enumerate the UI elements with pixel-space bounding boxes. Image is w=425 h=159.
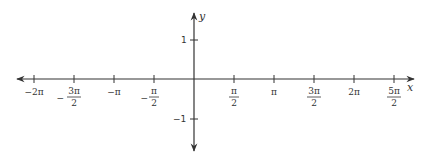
svg-text:3π: 3π [68,86,80,96]
x-tick-label-neg-3pi-over-2: − 3π 2 [56,86,81,108]
coordinate-plane: y x 1 −1 −2π − 3π 2 −π − π 2 π 2 π 3π 2 … [0,0,425,159]
svg-text:2: 2 [311,98,317,108]
svg-text:π: π [151,86,157,96]
svg-text:2: 2 [231,98,237,108]
x-tick-label-neg-pi: −π [107,87,121,97]
x-tick-label-2pi: 2π [348,87,360,97]
svg-text:5π: 5π [388,86,400,96]
svg-text:−: − [56,93,64,103]
x-tick-label-3pi-over-2: 3π 2 [307,86,321,108]
y-tick-label-1: 1 [181,35,187,45]
svg-text:2: 2 [151,98,157,108]
svg-text:−: − [140,93,148,103]
y-tick-label-neg1: −1 [173,114,186,124]
svg-text:2: 2 [71,98,77,108]
svg-text:2: 2 [391,98,397,108]
x-tick-label-pi: π [271,87,277,97]
x-tick-label-neg-2pi: −2π [24,87,43,97]
x-tick-label-5pi-over-2: 5π 2 [387,86,401,108]
y-axis-label: y [198,10,206,23]
x-tick-label-pi-over-2: π 2 [229,86,239,108]
x-axis-label: x [407,81,414,94]
svg-text:π: π [231,86,237,96]
svg-text:3π: 3π [308,86,320,96]
x-tick-label-neg-pi-over-2: − π 2 [140,86,159,108]
